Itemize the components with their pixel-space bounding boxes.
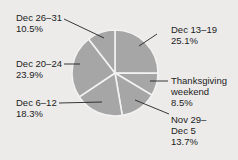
label-dec26: Dec 26–31 10.5%	[16, 12, 62, 34]
label-nov29-name-2: Dec 5	[171, 125, 206, 136]
label-dec13: Dec 13–19 25.1%	[171, 24, 217, 46]
label-dec20-value: 23.9%	[16, 69, 62, 80]
label-thanksgiving-name-2: weekend	[171, 86, 227, 97]
label-thanksgiving: Thanksgiving weekend 8.5%	[171, 75, 227, 108]
label-nov29-value: 13.7%	[171, 136, 206, 147]
label-dec6-name: Dec 6–12	[16, 97, 57, 108]
pie-slice	[115, 30, 158, 73]
label-thanksgiving-name-1: Thanksgiving	[171, 75, 227, 86]
pie-slices	[72, 30, 158, 116]
label-dec13-name: Dec 13–19	[171, 24, 217, 35]
label-nov29-name-1: Nov 29–	[171, 114, 206, 125]
label-dec26-value: 10.5%	[16, 23, 62, 34]
label-thanksgiving-value: 8.5%	[171, 97, 227, 108]
leader-dec26	[64, 19, 104, 38]
label-dec13-value: 25.1%	[171, 35, 217, 46]
label-dec20: Dec 20–24 23.9%	[16, 58, 62, 80]
label-nov29: Nov 29– Dec 5 13.7%	[171, 114, 206, 147]
label-dec6: Dec 6–12 18.3%	[16, 97, 57, 119]
label-dec20-name: Dec 20–24	[16, 58, 62, 69]
label-dec26-name: Dec 26–31	[16, 12, 62, 23]
label-dec6-value: 18.3%	[16, 108, 57, 119]
